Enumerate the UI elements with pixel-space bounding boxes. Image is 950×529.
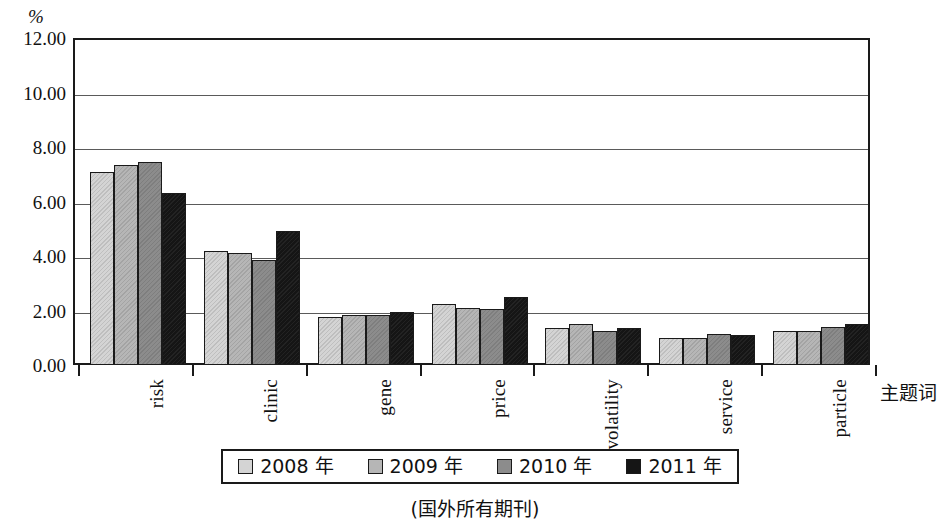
legend-item: 2010 年 <box>497 457 592 476</box>
x-axis-category-label: volatility <box>602 379 621 450</box>
y-axis-tick-label: 4.00 <box>0 247 66 266</box>
x-axis-category-label: particle <box>830 379 849 438</box>
x-axis-tick <box>647 365 649 376</box>
legend: 2008 年2009 年2010 年2011 年 <box>221 449 739 484</box>
y-axis-tick-label: 10.00 <box>0 83 66 102</box>
y-axis-unit-label: % <box>28 6 44 28</box>
x-axis-category-label: risk <box>147 379 166 408</box>
y-axis-tick-label: 8.00 <box>0 138 66 157</box>
plot-area <box>73 38 870 365</box>
y-axis-tick-label: 2.00 <box>0 301 66 320</box>
x-axis-tick <box>78 365 80 376</box>
legend-item: 2011 年 <box>626 457 721 476</box>
x-axis-title: 主题词 <box>880 378 937 405</box>
legend-swatch-icon <box>626 459 641 474</box>
gridline <box>75 313 868 314</box>
legend-label: 2008 年 <box>260 457 333 476</box>
legend-swatch-icon <box>238 459 253 474</box>
legend-item: 2009 年 <box>368 457 463 476</box>
y-axis-tick-label: 6.00 <box>0 192 66 211</box>
x-axis-tick <box>192 365 194 376</box>
gridline <box>75 258 868 259</box>
x-axis-tick <box>875 365 877 376</box>
x-axis-tick <box>306 365 308 376</box>
legend-label: 2009 年 <box>390 457 463 476</box>
x-axis-tick <box>761 365 763 376</box>
legend-swatch-icon <box>497 459 512 474</box>
x-axis-tick <box>533 365 535 376</box>
x-axis-tick <box>420 365 422 376</box>
x-axis-category-label: price <box>489 379 508 418</box>
figure-caption: (国外所有期刊) <box>0 494 950 521</box>
gridline <box>75 149 868 150</box>
y-axis-tick-label: 0.00 <box>0 356 66 375</box>
legend-swatch-icon <box>368 459 383 474</box>
legend-item: 2008 年 <box>238 457 333 476</box>
x-axis-category-label: clinic <box>261 379 280 422</box>
legend-label: 2011 年 <box>648 457 721 476</box>
x-axis-category-label: service <box>716 379 735 434</box>
legend-label: 2010 年 <box>519 457 592 476</box>
x-axis-category-label: gene <box>375 379 394 416</box>
y-axis-tick-label: 12.00 <box>0 29 66 48</box>
bar-chart-figure: % 0.002.004.006.008.0010.0012.00 riskcli… <box>0 0 950 529</box>
gridline <box>75 95 868 96</box>
gridline <box>75 204 868 205</box>
